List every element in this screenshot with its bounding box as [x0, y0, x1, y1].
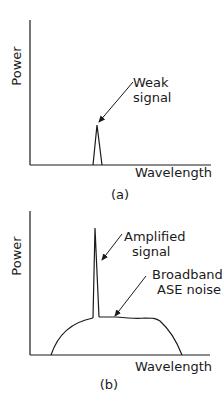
weak-signal-label-line1: Weak: [133, 75, 169, 90]
weak-signal-arrow: [99, 82, 133, 122]
panel-a: Power Wavelength Weak signal (a): [9, 20, 212, 202]
ase-noise-arrow: [115, 276, 146, 316]
ase-noise-label-line2: ASE noise: [157, 282, 221, 297]
ase-noise-label-line1: Broadband: [152, 267, 223, 282]
panel-b-caption: (b): [100, 377, 118, 392]
x-axis-label-b: Wavelength: [135, 359, 212, 374]
ase-noise-curve: [51, 317, 182, 355]
weak-signal-peak: [93, 125, 102, 165]
diagram: Power Wavelength Weak signal (a) Power W…: [0, 0, 224, 410]
x-axis-label-a: Wavelength: [135, 165, 212, 180]
weak-signal-label-line2: signal: [133, 90, 171, 105]
panel-b: Power Wavelength Amplified signal Broadb…: [9, 211, 223, 392]
y-axis-label-a: Power: [9, 46, 24, 86]
panel-a-caption: (a): [111, 187, 129, 202]
amplified-signal-spike: [93, 228, 99, 318]
amplified-signal-label-line1: Amplified: [124, 229, 185, 244]
amplified-signal-label-line2: signal: [132, 244, 170, 259]
amplified-signal-arrow: [102, 234, 122, 260]
y-axis-label-b: Power: [9, 236, 24, 276]
